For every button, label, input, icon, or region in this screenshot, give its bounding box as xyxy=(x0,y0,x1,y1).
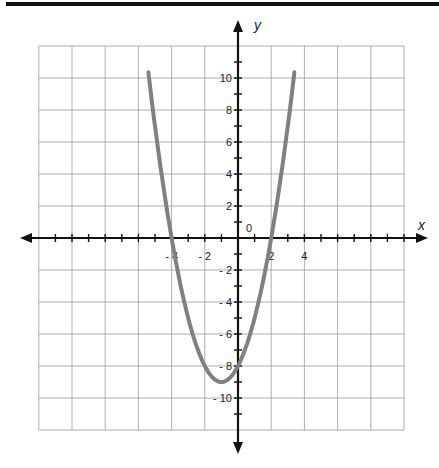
y-tick-label: 10 xyxy=(220,72,232,84)
x-tick-label: 4 xyxy=(301,250,307,262)
y-axis-up-arrow xyxy=(233,20,243,32)
y-tick-label: - 2 xyxy=(219,264,232,276)
y-axis-down-arrow xyxy=(233,442,243,454)
axes xyxy=(20,20,428,454)
y-tick-label: - 8 xyxy=(219,360,232,372)
x-tick-label: - 2 xyxy=(198,250,211,262)
x-axis-left-arrow xyxy=(20,233,32,243)
y-tick-label: 8 xyxy=(226,104,232,116)
origin-label: 0 xyxy=(246,222,252,234)
y-axis-label: y xyxy=(253,17,262,33)
y-tick-label: 4 xyxy=(226,168,232,180)
y-tick-label: - 10 xyxy=(213,392,232,404)
y-tick-label: - 4 xyxy=(219,296,232,308)
x-axis-right-arrow xyxy=(416,233,428,243)
x-axis-label: x xyxy=(417,217,426,233)
y-tick-label: 2 xyxy=(226,200,232,212)
y-tick-label: - 6 xyxy=(219,328,232,340)
parabola-chart: - 4- 224108642- 2- 4- 6- 8- 10 x y 0 xyxy=(0,0,439,468)
y-tick-label: 6 xyxy=(226,136,232,148)
